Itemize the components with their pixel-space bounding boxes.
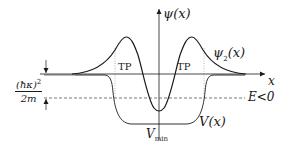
y-axis-label: ψ(x) (163, 7, 191, 20)
turning-point-left-label: TP (118, 62, 131, 72)
turning-point-right-label: TP (177, 62, 190, 72)
potential-label: V(x) (199, 115, 226, 128)
energy-label: E<0 (248, 91, 274, 103)
x-axis-label: x (268, 75, 275, 87)
wavefunction-label: ψ2(x) (213, 46, 245, 63)
binding-energy-label: (ħκ)2 2m (15, 79, 42, 104)
diagram-canvas (0, 0, 290, 148)
vmin-label: Vmin (146, 128, 168, 143)
